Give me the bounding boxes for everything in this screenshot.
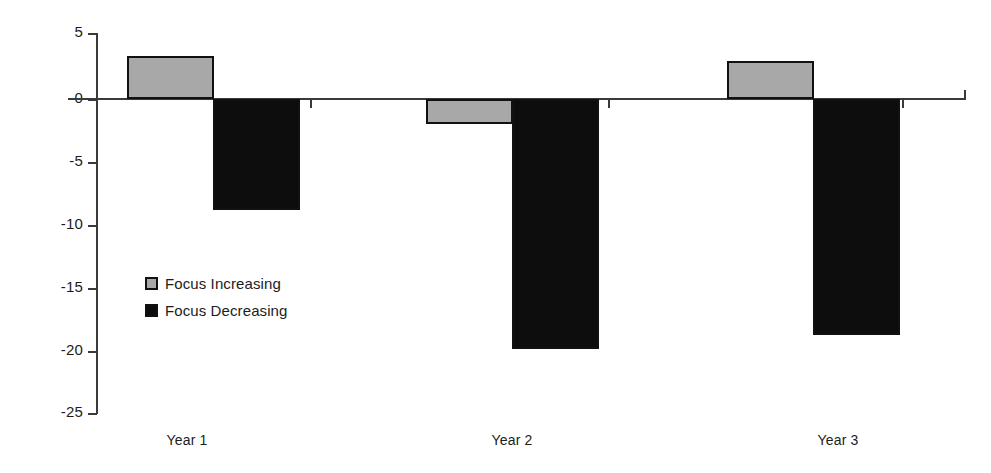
y-axis-tick-mark — [88, 33, 97, 35]
bar-decreasing-year-2 — [512, 99, 599, 349]
legend-label: Focus Increasing — [165, 275, 281, 292]
y-axis-tick-label: 5 — [43, 23, 83, 40]
y-axis-tick-mark — [88, 351, 97, 353]
y-axis-tick: -10 — [30, 225, 97, 227]
x-axis-category-label: Year 3 — [817, 432, 858, 448]
bar-decreasing-year-3 — [813, 99, 900, 335]
y-axis-tick-mark — [88, 413, 97, 415]
bar-increasing-year-1 — [127, 56, 214, 99]
legend-swatch-increasing-icon — [145, 277, 158, 290]
y-axis-tick: -25 — [30, 413, 97, 415]
bar-chart: 50-5-10-15-20-25 Focus IncreasingFocus D… — [0, 0, 991, 473]
y-axis-tick-label: -15 — [43, 278, 83, 295]
legend-item-increasing: Focus Increasing — [145, 270, 288, 297]
y-axis-tick: -15 — [30, 288, 97, 290]
y-axis-tick: -20 — [30, 351, 97, 353]
y-axis-tick-label: -25 — [43, 403, 83, 420]
legend: Focus IncreasingFocus Decreasing — [145, 270, 288, 324]
y-axis-tick-label: -10 — [43, 215, 83, 232]
x-axis-tick-mark — [608, 99, 610, 108]
bar-increasing-year-3 — [727, 61, 814, 99]
x-axis-category-label: Year 1 — [166, 432, 207, 448]
y-axis-tick-label: -5 — [43, 152, 83, 169]
y-axis-line — [96, 33, 98, 414]
x-axis-category-label: Year 2 — [491, 432, 532, 448]
y-axis-tick-mark — [88, 162, 97, 164]
x-axis-tick-mark — [310, 99, 312, 108]
legend-swatch-decreasing-icon — [145, 304, 158, 317]
x-axis-tick-mark — [902, 99, 904, 108]
y-axis-tick: 5 — [30, 33, 97, 35]
legend-label: Focus Decreasing — [165, 302, 288, 319]
legend-item-decreasing: Focus Decreasing — [145, 297, 288, 324]
y-axis-tick-mark — [88, 225, 97, 227]
bar-decreasing-year-1 — [213, 99, 300, 210]
y-axis-tick-mark — [88, 288, 97, 290]
x-axis-tick-mark — [964, 90, 966, 99]
y-axis-tick: -5 — [30, 162, 97, 164]
y-axis-tick-label: -20 — [43, 341, 83, 358]
bar-increasing-year-2 — [426, 99, 513, 124]
